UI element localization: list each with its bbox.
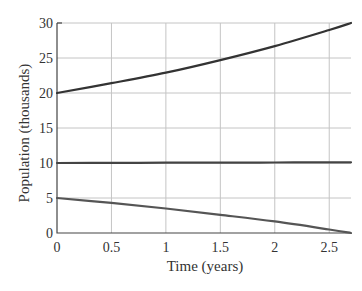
y-tick-label: 25 bbox=[39, 51, 53, 66]
y-tick-label: 10 bbox=[39, 156, 53, 171]
y-tick-label: 0 bbox=[46, 226, 53, 241]
y-tick-label: 30 bbox=[39, 16, 53, 31]
x-tick-label: 1.5 bbox=[212, 240, 230, 255]
x-axis-label: Time (years) bbox=[167, 258, 244, 275]
series-line-lower bbox=[57, 198, 351, 233]
tick-labels: 00.511.522.5051015202530 bbox=[39, 16, 338, 255]
y-axis-label: Population (thousands) bbox=[16, 64, 33, 203]
x-tick-label: 2.5 bbox=[320, 240, 338, 255]
x-tick-label: 0 bbox=[54, 240, 61, 255]
line-chart: 00.511.522.5051015202530 Time (years) Po… bbox=[0, 0, 362, 291]
y-tick-label: 15 bbox=[39, 121, 53, 136]
series-line-middle bbox=[57, 162, 351, 163]
x-tick-label: 2 bbox=[271, 240, 278, 255]
y-tick-label: 20 bbox=[39, 86, 53, 101]
x-tick-label: 1 bbox=[162, 240, 169, 255]
x-tick-label: 0.5 bbox=[103, 240, 121, 255]
y-tick-label: 5 bbox=[46, 191, 53, 206]
